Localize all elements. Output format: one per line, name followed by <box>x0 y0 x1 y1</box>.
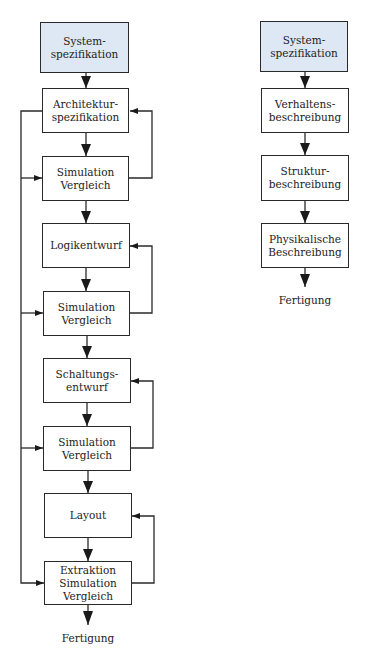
box-text: Simulation <box>57 166 115 179</box>
box-text: spezifikation <box>270 47 338 60</box>
logic-design-box: Logikentwurf <box>42 223 130 268</box>
box-text: System- <box>63 35 105 48</box>
box-text: Logikentwurf <box>50 239 122 252</box>
box-text: Vergleich <box>63 590 113 603</box>
right-system-spec-box: System- spezifikation <box>260 21 348 72</box>
box-text: entwurf <box>66 381 108 394</box>
left-fabrication-label: Fertigung <box>38 632 138 644</box>
box-text: spezifikation <box>52 111 120 124</box>
box-text: Schaltungs- <box>56 368 119 381</box>
box-text: Simulation <box>58 301 116 314</box>
box-text: spezifikation <box>51 48 119 61</box>
box-text: Beschreibung <box>268 246 342 259</box>
simulation-compare-box-1: Simulation Vergleich <box>42 156 129 201</box>
box-text: Verhaltens- <box>275 98 335 111</box>
box-text: Architektur- <box>53 98 118 111</box>
box-text: Vergleich <box>61 314 111 327</box>
structure-description-box: Struktur- beschreibung <box>261 155 349 201</box>
box-text: Struktur- <box>280 165 329 178</box>
physical-description-box: Physikalische Beschreibung <box>261 223 349 268</box>
box-text: Vergleich <box>62 449 112 462</box>
right-fabrication-label: Fertigung <box>255 294 355 306</box>
box-text: beschreibung <box>269 111 342 124</box>
layout-box: Layout <box>44 493 132 538</box>
box-text: Extraktion <box>60 564 116 577</box>
box-text: Simulation <box>58 436 116 449</box>
behavior-description-box: Verhaltens- beschreibung <box>261 88 349 133</box>
left-feedforward-line <box>21 111 44 583</box>
box-text: Vergleich <box>60 179 110 192</box>
box-text: Simulation <box>59 577 117 590</box>
box-text: Layout <box>70 509 106 522</box>
box-text: System- <box>283 34 325 47</box>
extraction-simulation-compare-box: Extraktion Simulation Vergleich <box>44 561 132 605</box>
box-text: beschreibung <box>269 178 342 191</box>
box-text: Physikalische <box>269 233 341 246</box>
left-system-spec-box: System- spezifikation <box>40 22 129 73</box>
simulation-compare-box-3: Simulation Vergleich <box>43 426 131 471</box>
simulation-compare-box-2: Simulation Vergleich <box>43 291 130 336</box>
architecture-spec-box: Architektur- spezifikation <box>42 88 129 133</box>
circuit-design-box: Schaltungs- entwurf <box>43 358 131 403</box>
